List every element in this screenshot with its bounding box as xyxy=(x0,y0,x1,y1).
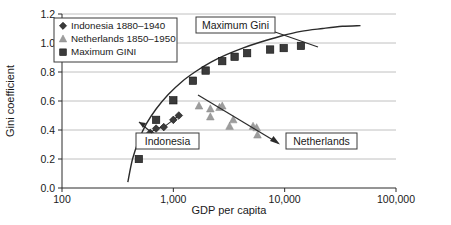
data-point-square xyxy=(189,77,196,84)
x-tick-label: 10,000 xyxy=(269,193,301,205)
netherlands-callout-label: Netherlands xyxy=(293,135,350,147)
data-point-square xyxy=(243,49,250,56)
data-point-square xyxy=(202,67,209,74)
legend-label: Indonesia 1880–1940 xyxy=(71,20,166,31)
y-tick-label: 0.8 xyxy=(40,66,55,78)
y-tick-label: 1.2 xyxy=(40,8,55,20)
gini-gdp-chart: 0.00.20.40.60.81.01.2 1001,00010,000100,… xyxy=(0,0,451,225)
y-tick-label: 0.2 xyxy=(40,153,55,165)
data-point-square xyxy=(297,42,304,49)
legend: Indonesia 1880–1940Netherlands 1850–1950… xyxy=(54,18,177,62)
y-axis-title: Gini coefficient xyxy=(4,65,16,137)
data-point-square xyxy=(266,46,273,53)
indonesia-callout-label: Indonesia xyxy=(145,135,191,147)
x-tick-label: 100,000 xyxy=(377,193,415,205)
data-point-square xyxy=(135,155,142,162)
maximum-gini-callout-label: Maximum Gini xyxy=(202,19,269,31)
y-tick-label: 0.0 xyxy=(40,182,55,194)
y-tick-label: 0.4 xyxy=(40,124,55,136)
data-point-square xyxy=(219,57,226,64)
y-tick-label: 1.0 xyxy=(40,37,55,49)
chart-svg: 0.00.20.40.60.81.01.2 1001,00010,000100,… xyxy=(0,0,451,225)
data-point-square xyxy=(152,116,159,123)
x-axis-title: GDP per capita xyxy=(191,204,267,216)
legend-label: Maximum GINI xyxy=(71,46,136,57)
legend-marker-square xyxy=(60,49,67,56)
x-tick-label: 1,000 xyxy=(160,193,186,205)
data-point-square xyxy=(231,53,238,60)
legend-label: Netherlands 1850–1950 xyxy=(71,33,176,44)
data-point-square xyxy=(280,44,287,51)
x-tick-label: 100 xyxy=(53,193,71,205)
data-point-square xyxy=(170,97,177,104)
y-tick-label: 0.6 xyxy=(40,95,55,107)
